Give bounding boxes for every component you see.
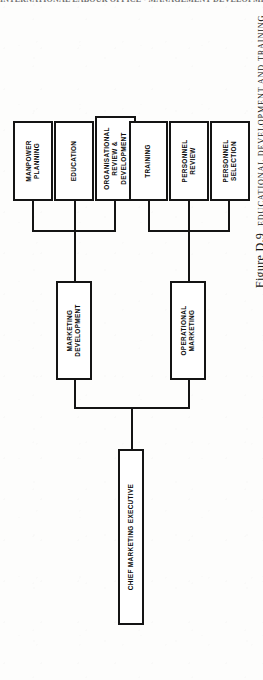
- organisation-chart-rotated: CHIEF MARKETING EXECUTIVE MARKETING DEVE…: [0, 0, 263, 680]
- node-label: MANPOWER PLANNING: [25, 138, 41, 184]
- connector-to-personnel-selection: [228, 200, 230, 232]
- connector-to-education: [74, 200, 76, 232]
- connector-to-manpower-planning: [32, 200, 34, 232]
- node-operational-marketing[interactable]: OPERATIONAL MARKETING: [170, 281, 206, 380]
- connector-to-organisational-review: [114, 200, 116, 232]
- node-training[interactable]: TRAINING: [129, 121, 168, 201]
- connector-to-marketing-development: [74, 379, 76, 409]
- organisation-chart: CHIEF MARKETING EXECUTIVE MARKETING DEVE…: [0, 0, 263, 680]
- node-label: ORGANISATIONAL REVIEW & DEVELOPMENT: [103, 125, 128, 192]
- connector-operational-marketing-stub: [188, 230, 190, 282]
- connector-to-operational-marketing: [188, 379, 190, 409]
- figure-caption: Figure D.9 EDUCATIONAL DEVELOPMENT AND T…: [253, 15, 263, 288]
- node-label: EDUCATION: [70, 139, 78, 184]
- node-label: MARKETING DEVELOPMENT: [66, 302, 82, 359]
- node-label: PERSONNEL SELECTION: [222, 138, 238, 185]
- connector-marketing-development-stub: [74, 230, 76, 282]
- figure-number: Figure D.9: [253, 233, 263, 288]
- node-marketing-development[interactable]: MARKETING DEVELOPMENT: [56, 281, 92, 380]
- node-label: CHIEF MARKETING EXECUTIVE: [127, 482, 135, 592]
- node-education[interactable]: EDUCATION: [54, 121, 94, 201]
- node-personnel-review[interactable]: PERSONNEL REVIEW: [169, 121, 209, 201]
- node-label: OPERATIONAL MARKETING: [180, 304, 196, 358]
- scanned-page: INTERNATIONAL LABOUR OFFICE · MANAGEMENT…: [0, 0, 263, 680]
- connector-to-training: [148, 200, 150, 232]
- node-chief-marketing-executive[interactable]: CHIEF MARKETING EXECUTIVE: [118, 449, 144, 625]
- node-label: TRAINING: [144, 142, 152, 180]
- connector-level1-spine: [74, 407, 190, 409]
- node-personnel-selection[interactable]: PERSONNEL SELECTION: [210, 121, 250, 201]
- figure-title: EDUCATIONAL DEVELOPMENT AND TRAINING: [257, 15, 263, 226]
- connector-to-personnel-review: [188, 200, 190, 232]
- node-label: PERSONNEL REVIEW: [181, 138, 197, 185]
- node-manpower-planning[interactable]: MANPOWER PLANNING: [13, 121, 53, 201]
- connector-root-stub: [131, 407, 133, 450]
